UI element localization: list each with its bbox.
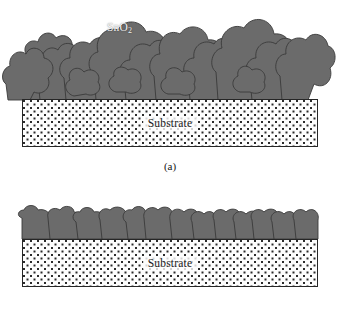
figure-root: SnO2 Substrate (a): [0, 0, 340, 313]
caption-a: (a): [0, 160, 340, 172]
panel-a: SnO2 Substrate (a): [0, 0, 340, 180]
substrate-block-a: Substrate: [22, 99, 318, 147]
substrate-label-b: Substrate: [143, 257, 198, 270]
panel-b: Substrate (b): [0, 180, 340, 313]
substrate-label-a: Substrate: [143, 117, 198, 130]
sno2-dense-film-b: [0, 202, 340, 240]
substrate-block-b: Substrate: [22, 239, 318, 287]
sno2-porous-film-a: [0, 0, 340, 102]
